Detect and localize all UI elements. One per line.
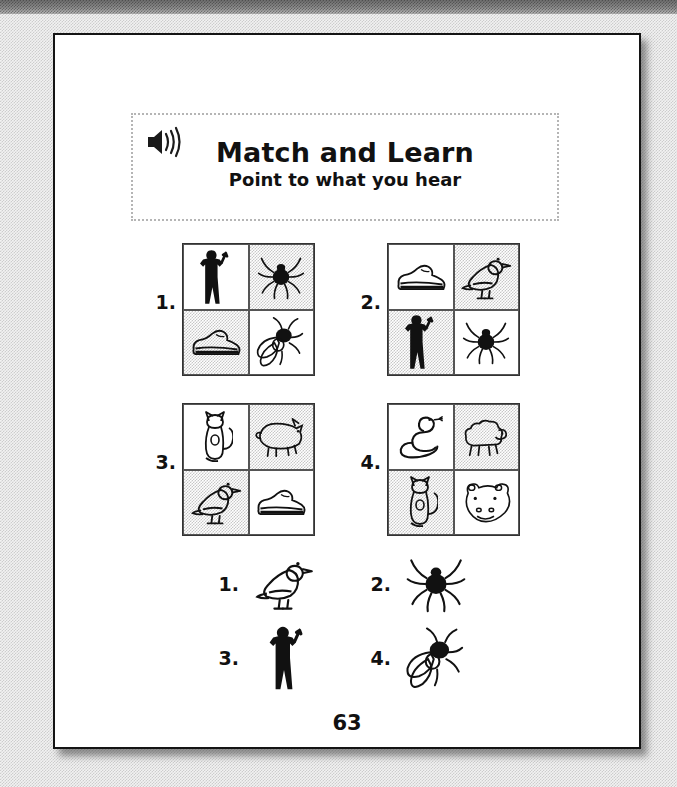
- shoe-icon: [393, 260, 449, 294]
- scanned-page-background: Match and Learn Point to what you hear: [0, 0, 677, 787]
- answer-key-number-2: 2.: [365, 573, 391, 595]
- grid-cell[interactable]: [454, 470, 520, 536]
- answer-key-item-4[interactable]: 4.: [365, 627, 473, 689]
- grid-cell[interactable]: [388, 310, 454, 376]
- spider-icon: [401, 551, 471, 617]
- question-block-3: 3.: [182, 403, 315, 536]
- cat-icon: [199, 409, 233, 465]
- sheep-icon: [460, 415, 512, 459]
- question-block-2: 2.: [387, 243, 520, 376]
- grid-cell[interactable]: [249, 404, 315, 470]
- grid-cell[interactable]: [388, 470, 454, 536]
- answer-key-number-1: 1.: [213, 573, 239, 595]
- worksheet-page: Match and Learn Point to what you hear: [53, 33, 641, 749]
- answer-key-item-1[interactable]: 1.: [213, 553, 321, 615]
- man-icon: [188, 246, 243, 308]
- grid-cell[interactable]: [183, 310, 249, 376]
- header-title-block: Match and Learn Point to what you hear: [133, 137, 557, 191]
- answer-key-number-4: 4.: [365, 647, 391, 669]
- answer-key-item-2[interactable]: 2.: [365, 553, 473, 615]
- answer-key-item-3[interactable]: 3.: [213, 627, 321, 689]
- grid-cell[interactable]: [454, 244, 520, 310]
- grid-cell[interactable]: [183, 404, 249, 470]
- pig-icon: [253, 415, 309, 459]
- scan-top-shadow-band: [0, 0, 677, 14]
- grid-cell[interactable]: [249, 310, 315, 376]
- grid-cell[interactable]: [183, 470, 249, 536]
- grid-cell[interactable]: [388, 244, 454, 310]
- grid-cell[interactable]: [249, 470, 315, 536]
- question-block-1: 1.: [182, 243, 315, 376]
- snake-icon: [395, 412, 447, 462]
- spider-icon: [255, 251, 307, 303]
- grid-cell[interactable]: [454, 310, 520, 376]
- answer-key-art-4: [399, 627, 473, 689]
- question-number-3: 3.: [146, 451, 176, 473]
- grid-cell[interactable]: [454, 404, 520, 470]
- answer-grid-1[interactable]: [182, 243, 315, 376]
- grid-cell[interactable]: [183, 244, 249, 310]
- answer-grid-3[interactable]: [182, 403, 315, 536]
- fly-icon: [254, 315, 308, 369]
- page-number: 63: [55, 711, 639, 735]
- answer-key-number-3: 3.: [213, 647, 239, 669]
- grid-cell[interactable]: [388, 404, 454, 470]
- shoe-icon: [253, 485, 309, 519]
- header-banner: Match and Learn Point to what you hear: [131, 113, 559, 221]
- answer-grid-4[interactable]: [387, 403, 520, 536]
- question-block-4: 4.: [387, 403, 520, 536]
- bird-icon: [458, 250, 514, 304]
- answer-key-art-1: [247, 553, 321, 615]
- spider-icon: [460, 316, 512, 368]
- bird-icon: [247, 553, 321, 615]
- bird-icon: [188, 475, 244, 529]
- hippo-icon: [459, 477, 513, 527]
- fly-icon: [400, 625, 472, 691]
- cat-icon: [404, 474, 438, 530]
- man-icon: [260, 622, 308, 694]
- grid-cell[interactable]: [249, 244, 315, 310]
- question-number-4: 4.: [351, 451, 381, 473]
- page-title: Match and Learn: [133, 137, 557, 168]
- page-subtitle: Point to what you hear: [133, 170, 557, 191]
- question-number-2: 2.: [351, 291, 381, 313]
- answer-key-art-2: [399, 553, 473, 615]
- man-icon: [393, 311, 448, 373]
- answer-key-art-3: [247, 627, 321, 689]
- answer-grid-2[interactable]: [387, 243, 520, 376]
- shoe-icon: [188, 325, 244, 359]
- question-number-1: 1.: [146, 291, 176, 313]
